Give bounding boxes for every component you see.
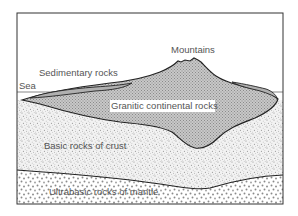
label-mountains: Mountains	[171, 44, 215, 55]
label-sedimentary-rocks: Sedimentary rocks	[39, 67, 118, 78]
geology-cross-section: Mountains Sedimentary rocks Sea Granitic…	[0, 0, 298, 216]
label-sea: Sea	[19, 80, 37, 91]
label-basic-rocks-of-crust: Basic rocks of crust	[44, 140, 127, 151]
label-ultrabasic-rocks-of-mantle: Ultrabasic rocks of mantle	[49, 186, 158, 197]
label-granitic-continental-rocks: Granitic continental rocks	[111, 100, 218, 111]
